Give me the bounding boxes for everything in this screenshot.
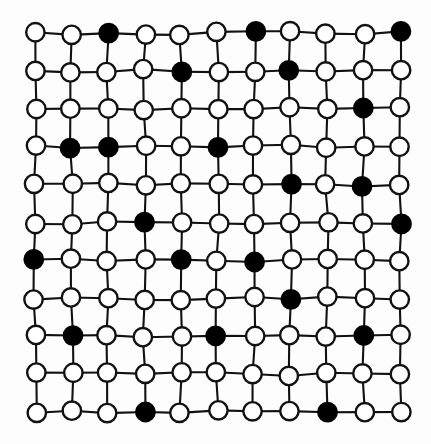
- lattice-node-empty[interactable]: [25, 175, 43, 193]
- lattice-node-empty[interactable]: [98, 212, 116, 230]
- lattice-node-empty[interactable]: [356, 25, 374, 43]
- lattice-node-empty[interactable]: [207, 363, 225, 381]
- lattice-node-empty[interactable]: [243, 365, 261, 383]
- lattice-node-empty[interactable]: [390, 252, 408, 270]
- lattice-node-empty[interactable]: [318, 250, 336, 268]
- lattice-node-empty[interactable]: [27, 100, 45, 118]
- lattice-node-empty[interactable]: [64, 364, 82, 382]
- lattice-node-empty[interactable]: [99, 174, 117, 192]
- lattice-node-empty[interactable]: [173, 213, 191, 231]
- lattice-node-empty[interactable]: [137, 25, 155, 43]
- lattice-node-empty[interactable]: [317, 327, 335, 345]
- lattice-node-empty[interactable]: [27, 136, 45, 154]
- lattice-node-empty[interactable]: [392, 61, 410, 79]
- lattice-node-empty[interactable]: [280, 367, 298, 385]
- lattice-node-empty[interactable]: [62, 249, 80, 267]
- lattice-node-empty[interactable]: [137, 176, 155, 194]
- lattice-node-empty[interactable]: [26, 23, 44, 41]
- lattice-node-empty[interactable]: [207, 252, 225, 270]
- lattice-node-empty[interactable]: [354, 214, 372, 232]
- lattice-node-empty[interactable]: [26, 62, 44, 80]
- lattice-node-filled[interactable]: [135, 213, 153, 231]
- lattice-node-empty[interactable]: [209, 100, 227, 118]
- lattice-node-empty[interactable]: [207, 23, 225, 41]
- lattice-node-empty[interactable]: [62, 288, 80, 306]
- lattice-node-empty[interactable]: [61, 99, 79, 117]
- lattice-node-empty[interactable]: [316, 62, 334, 80]
- lattice-node-empty[interactable]: [391, 326, 409, 344]
- lattice-node-filled[interactable]: [354, 99, 372, 117]
- lattice-node-empty[interactable]: [62, 26, 80, 44]
- lattice-node-empty[interactable]: [391, 365, 409, 383]
- lattice-node-empty[interactable]: [28, 404, 46, 422]
- lattice-node-empty[interactable]: [61, 63, 79, 81]
- lattice-node-empty[interactable]: [355, 137, 373, 155]
- lattice-node-empty[interactable]: [390, 138, 408, 156]
- lattice-node-empty[interactable]: [354, 61, 372, 79]
- lattice-node-empty[interactable]: [282, 136, 300, 154]
- lattice-node-empty[interactable]: [97, 252, 115, 270]
- lattice-node-filled[interactable]: [355, 326, 373, 344]
- lattice-node-empty[interactable]: [391, 98, 409, 116]
- lattice-node-empty[interactable]: [210, 63, 228, 81]
- lattice-node-empty[interactable]: [97, 63, 115, 81]
- lattice-node-empty[interactable]: [281, 22, 299, 40]
- lattice-node-empty[interactable]: [245, 288, 263, 306]
- lattice-node-empty[interactable]: [98, 363, 116, 381]
- lattice-node-empty[interactable]: [134, 60, 152, 78]
- lattice-node-empty[interactable]: [137, 137, 155, 155]
- lattice-node-empty[interactable]: [172, 174, 190, 192]
- lattice-node-filled[interactable]: [392, 22, 410, 40]
- lattice-node-filled[interactable]: [209, 138, 227, 156]
- lattice-node-empty[interactable]: [137, 250, 155, 268]
- lattice-node-empty[interactable]: [390, 176, 408, 194]
- lattice-node-empty[interactable]: [356, 251, 374, 269]
- lattice-node-empty[interactable]: [99, 99, 117, 117]
- lattice-node-empty[interactable]: [136, 291, 154, 309]
- lattice-node-empty[interactable]: [356, 289, 374, 307]
- lattice-node-filled[interactable]: [99, 138, 117, 156]
- lattice-node-empty[interactable]: [170, 404, 188, 422]
- lattice-node-empty[interactable]: [99, 289, 117, 307]
- lattice-node-filled[interactable]: [99, 24, 117, 42]
- lattice-node-filled[interactable]: [61, 139, 79, 157]
- lattice-node-empty[interactable]: [134, 328, 152, 346]
- lattice-node-filled[interactable]: [392, 215, 410, 233]
- lattice-node-empty[interactable]: [207, 289, 225, 307]
- lattice-node-empty[interactable]: [283, 250, 301, 268]
- lattice-node-empty[interactable]: [356, 403, 374, 421]
- lattice-node-empty[interactable]: [98, 404, 116, 422]
- lattice-node-filled[interactable]: [136, 403, 154, 421]
- lattice-node-filled[interactable]: [282, 175, 300, 193]
- lattice-node-empty[interactable]: [172, 137, 190, 155]
- lattice-node-filled[interactable]: [172, 250, 190, 268]
- lattice-node-filled[interactable]: [247, 22, 265, 40]
- lattice-node-empty[interactable]: [246, 327, 264, 345]
- lattice-node-empty[interactable]: [280, 402, 298, 420]
- lattice-node-empty[interactable]: [353, 364, 371, 382]
- lattice-node-filled[interactable]: [282, 290, 300, 308]
- lattice-node-empty[interactable]: [280, 326, 298, 344]
- lattice-node-empty[interactable]: [318, 100, 336, 118]
- lattice-node-empty[interactable]: [64, 175, 82, 193]
- lattice-node-empty[interactable]: [27, 326, 45, 344]
- lattice-node-empty[interactable]: [136, 365, 154, 383]
- lattice-node-empty[interactable]: [170, 26, 188, 44]
- lattice-node-empty[interactable]: [316, 24, 334, 42]
- lattice-node-empty[interactable]: [172, 291, 190, 309]
- lattice-node-empty[interactable]: [392, 403, 410, 421]
- lattice-node-filled[interactable]: [280, 61, 298, 79]
- lattice-node-empty[interactable]: [210, 175, 228, 193]
- lattice-node-empty[interactable]: [317, 364, 335, 382]
- lattice-node-empty[interactable]: [63, 215, 81, 233]
- lattice-node-empty[interactable]: [246, 63, 264, 81]
- lattice-node-empty[interactable]: [281, 214, 299, 232]
- lattice-node-empty[interactable]: [26, 215, 44, 233]
- lattice-node-empty[interactable]: [27, 363, 45, 381]
- lattice-node-empty[interactable]: [391, 290, 409, 308]
- lattice-node-filled[interactable]: [173, 63, 191, 81]
- lattice-node-empty[interactable]: [243, 402, 261, 420]
- lattice-node-empty[interactable]: [244, 100, 262, 118]
- lattice-node-empty[interactable]: [172, 99, 190, 117]
- lattice-node-filled[interactable]: [64, 326, 82, 344]
